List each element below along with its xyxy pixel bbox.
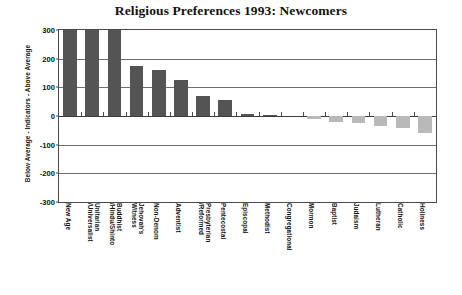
bar	[329, 116, 343, 122]
x-tick-mark	[214, 112, 215, 116]
y-tick-label: 300	[42, 26, 55, 35]
bar	[241, 114, 255, 116]
x-axis-label: Mormon	[308, 203, 315, 228]
y-tick-label: 0	[51, 112, 55, 121]
y-tick-label: -200	[40, 169, 55, 178]
x-axis-label: Lutheran	[375, 203, 382, 231]
x-tick-mark	[148, 112, 149, 116]
bar	[396, 116, 410, 128]
x-tick-mark	[126, 112, 127, 116]
bar	[130, 66, 144, 116]
y-tick-label: 200	[42, 54, 55, 63]
x-tick-mark	[347, 112, 348, 116]
x-tick-mark	[170, 112, 171, 116]
y-axis-title: Below Average - Indicators - Above Avera…	[24, 26, 31, 202]
x-tick-mark	[103, 112, 104, 116]
x-axis-label: Catholic	[397, 203, 404, 229]
x-axis-label: Presbyterian /Reformed	[197, 203, 212, 242]
x-tick-mark	[325, 112, 326, 116]
x-axis-label: Unitarian /Universalist	[86, 203, 101, 242]
bar	[174, 80, 188, 116]
x-axis-label: Adventist	[175, 203, 182, 233]
bar	[374, 116, 388, 126]
x-tick-mark	[192, 112, 193, 116]
x-tick-mark	[81, 112, 82, 116]
x-axis-label: Judaism	[352, 203, 359, 229]
x-tick-mark	[436, 112, 437, 116]
y-tick-label: -100	[40, 140, 55, 149]
x-tick-mark	[259, 112, 260, 116]
x-axis-label: Congregational	[286, 203, 293, 251]
bar	[418, 116, 432, 133]
x-axis-label: Methodist	[264, 203, 271, 234]
x-axis-label: Holiness	[419, 203, 426, 230]
x-tick-mark	[414, 112, 415, 116]
bar	[85, 30, 99, 116]
plot-area: 3002001000-100-200-300	[58, 29, 437, 203]
x-axis-label: New Age	[64, 203, 71, 230]
bar	[196, 96, 210, 116]
bar-series	[59, 30, 436, 202]
chart-title: Religious Preferences 1993: Newcomers	[0, 3, 462, 19]
bar	[307, 116, 321, 119]
x-axis-label: Pentecostal	[219, 203, 226, 239]
x-axis-label: Non-Denom	[153, 203, 160, 240]
x-tick-mark	[303, 112, 304, 116]
x-tick-mark	[392, 112, 393, 116]
y-tick-label: -300	[40, 198, 55, 207]
bar	[263, 115, 277, 116]
y-tick-label: 100	[42, 83, 55, 92]
x-axis-label: Buddhist /Hindu/Shinto	[108, 203, 123, 245]
x-tick-mark	[281, 112, 282, 116]
x-tick-mark	[236, 112, 237, 116]
x-tick-mark	[369, 112, 370, 116]
chart-figure: Religious Preferences 1993: Newcomers Be…	[0, 0, 462, 295]
bar	[152, 70, 166, 116]
x-axis-label: Jehovah's Witness	[131, 203, 146, 234]
x-axis-labels: New AgeUnitarian /UniversalistBuddhist /…	[58, 203, 437, 295]
bar	[63, 30, 77, 116]
bar	[352, 116, 366, 123]
x-axis-label: Baptist	[330, 203, 337, 225]
x-axis-label: Episcopal	[242, 203, 249, 234]
bar	[218, 100, 232, 116]
bar	[108, 30, 122, 116]
